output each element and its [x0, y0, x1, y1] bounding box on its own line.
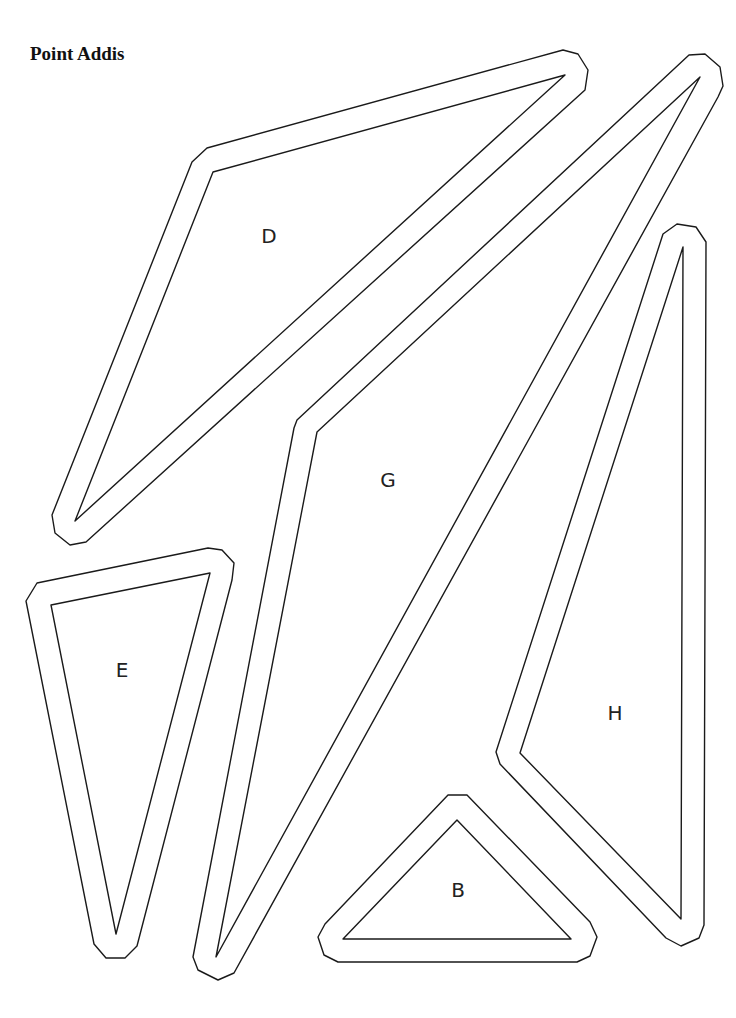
- piece-e-cutline: [51, 573, 210, 934]
- piece-b: B: [318, 795, 597, 962]
- piece-g-label: G: [380, 468, 396, 492]
- piece-d-cutline: [75, 75, 565, 521]
- piece-h-cutline: [520, 247, 683, 919]
- piece-g-cutline: [216, 77, 700, 957]
- piece-b-label: B: [451, 878, 465, 902]
- piece-e-label: E: [116, 658, 129, 682]
- piece-e: E: [26, 548, 234, 958]
- pattern-pieces: D G H E B: [0, 0, 736, 1018]
- piece-h-label: H: [607, 701, 622, 725]
- piece-e-outline: [26, 548, 234, 958]
- piece-d: D: [52, 50, 588, 545]
- piece-h-outline: [496, 224, 706, 946]
- piece-h: H: [496, 224, 706, 946]
- piece-d-label: D: [261, 224, 276, 248]
- piece-g: G: [193, 54, 723, 980]
